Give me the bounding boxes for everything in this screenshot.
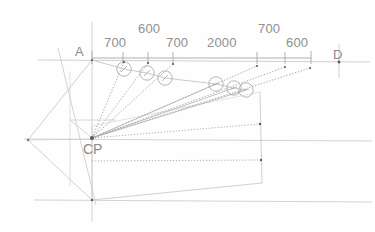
ray-edge-lower	[92, 84, 216, 138]
measure-marker-4	[209, 77, 223, 91]
point-on-plane-3	[172, 63, 174, 65]
point-on-plane-5	[284, 66, 286, 68]
box-right-edge	[260, 92, 262, 183]
solid-rays	[70, 84, 246, 138]
drawing-canvas: 700 600 700 2000 700 600 A D CP	[0, 0, 375, 232]
measure-marker-1	[117, 62, 131, 76]
measure-markers	[117, 62, 253, 97]
point-on-plane-2	[147, 62, 149, 64]
point-on-plane-1	[123, 61, 125, 63]
wedge-upper-edge	[28, 60, 92, 140]
dimension-label-700-second: 700	[166, 36, 188, 49]
slant-guide-line	[58, 48, 96, 205]
point-label-cp: CP	[83, 142, 102, 156]
measure-marker-2	[140, 66, 154, 80]
dotted-ray-upper	[92, 124, 260, 138]
point-on-plane-6	[309, 67, 311, 69]
wedge-vertex-point	[27, 139, 30, 142]
ray-edge-mid	[92, 88, 234, 138]
ray-to-point-3	[92, 64, 173, 138]
point-bottom-vertex	[91, 199, 93, 201]
point-box-corner	[259, 123, 261, 125]
measure-marker-3	[158, 71, 172, 85]
point-a	[91, 59, 93, 61]
point-box-lower	[260, 159, 262, 161]
point-on-plane-4	[256, 65, 258, 67]
point-label-a: A	[75, 45, 84, 58]
dimension-label-2000: 2000	[207, 36, 237, 49]
horizon-line	[38, 60, 370, 62]
box-bottom-edge	[92, 183, 262, 200]
box-top-edge	[92, 92, 260, 126]
point-label-d: D	[333, 48, 342, 61]
ray-stub-horizontal	[70, 120, 92, 138]
horizontal-construction-rays	[92, 124, 261, 161]
dimension-label-700-first: 700	[104, 36, 126, 49]
dotted-ray-lower	[92, 160, 261, 161]
dimension-label-600-first: 600	[138, 22, 160, 35]
ray-to-point-5	[92, 67, 285, 138]
node-points	[90, 59, 341, 201]
point-cp	[90, 136, 94, 140]
ground-line	[34, 200, 372, 202]
dimension-label-700-third: 700	[258, 22, 280, 35]
ray-to-point-1	[92, 62, 124, 138]
ray-edge-upper	[92, 90, 246, 138]
dimension-label-600-second: 600	[286, 36, 308, 49]
